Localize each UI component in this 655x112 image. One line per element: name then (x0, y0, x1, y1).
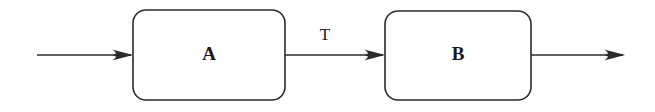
diagram-canvas: A T B (0, 0, 655, 112)
block-diagram: A T B (0, 0, 655, 112)
edge-input (37, 50, 133, 61)
edge-a-to-b: T (285, 25, 385, 60)
edge-input-arrowhead-lower (112, 54, 133, 61)
block-a[interactable]: A (133, 10, 285, 100)
edge-a-to-b-arrowhead-lower (364, 54, 385, 61)
block-b[interactable]: B (385, 11, 531, 100)
edge-output (531, 50, 625, 61)
block-b-label: B (452, 43, 465, 64)
edge-output-arrowhead-lower (604, 54, 625, 61)
block-a-label: A (202, 43, 216, 64)
edge-a-to-b-label: T (320, 25, 331, 44)
